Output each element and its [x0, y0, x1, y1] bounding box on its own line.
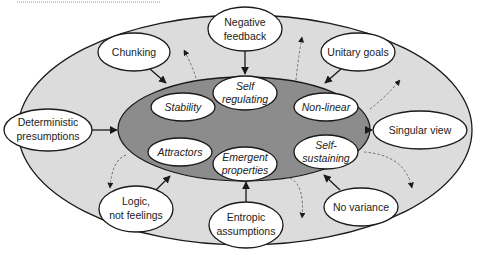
node-label: Entropic [227, 211, 266, 223]
node-label: assumptions [217, 225, 276, 237]
outer-node-logic-not-feelings: Logic, not feelings [99, 186, 173, 232]
outer-node-chunking: Chunking [98, 33, 170, 71]
node-label: presumptions [16, 130, 79, 142]
node-label: regulating [222, 93, 268, 105]
node-label: feedback [224, 30, 267, 42]
outer-node-negative-feedback: Negative feedback [208, 7, 282, 51]
inner-node-stability: Stability [151, 93, 215, 121]
outer-node-unitary-goals: Unitary goals [321, 33, 395, 71]
node-label: Unitary goals [327, 46, 388, 58]
systems-diagram: Negative feedback Chunking Unitary goals… [0, 0, 489, 255]
outer-node-deterministic-presumptions: Deterministic presumptions [4, 109, 92, 151]
node-label: Chunking [112, 46, 157, 58]
node-label: Emergent [222, 151, 269, 163]
node-label: Self- [315, 139, 337, 151]
inner-node-self-regulating: Self regulating [213, 76, 277, 110]
node-label: Deterministic [18, 116, 79, 128]
node-label: Non-linear [302, 101, 351, 113]
inner-node-self-sustaining: Self- sustaining [294, 135, 358, 169]
node-label: No variance [333, 201, 389, 213]
outer-node-singular-view: Singular view [373, 111, 467, 149]
outer-node-entropic-assumptions: Entropic assumptions [209, 202, 283, 248]
outer-node-no-variance: No variance [324, 188, 398, 226]
inner-node-emergent-properties: Emergent properties [213, 147, 277, 181]
inner-node-non-linear: Non-linear [294, 93, 358, 121]
node-label: properties [221, 164, 269, 176]
node-label: Singular view [389, 124, 452, 136]
inner-node-attractors: Attractors [148, 138, 212, 166]
node-label: Logic, [122, 195, 150, 207]
node-label: not feelings [109, 209, 163, 221]
node-label: Self [236, 80, 255, 92]
node-label: Attractors [157, 146, 204, 158]
node-label: Stability [165, 101, 203, 113]
node-label: Negative [224, 16, 266, 28]
node-label: sustaining [302, 152, 349, 164]
